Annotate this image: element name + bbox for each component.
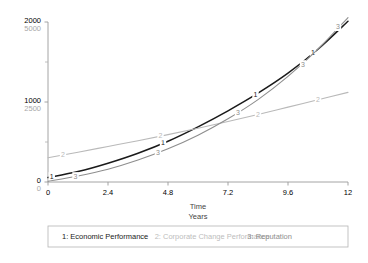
x-tick-label: 4.8	[163, 188, 173, 197]
legend-entry-3[interactable]: 3: Reputation	[247, 232, 292, 241]
series-point-label-3: 3	[300, 60, 306, 68]
series-point-label-3: 3	[335, 23, 341, 31]
point-label: 3	[301, 61, 305, 68]
series-point-label-3: 3	[235, 109, 241, 117]
series-point-label-2: 2	[255, 110, 261, 118]
series-point-label-1: 1	[252, 91, 258, 99]
point-label: 3	[156, 149, 160, 156]
x-tick-label: 0	[46, 188, 50, 197]
series-point-label-1: 1	[49, 172, 55, 180]
x-tick-label: 12	[344, 188, 352, 197]
y-tick-label-secondary: 2500	[24, 104, 41, 113]
point-label: 1	[50, 173, 54, 180]
y-tick-label-secondary: 0	[37, 184, 41, 193]
series-3: 33333	[48, 18, 348, 182]
y-axis-ticks: 00100025002000500002.44.87.29.612TimeYea…	[24, 16, 352, 221]
x-tick-label: 7.2	[223, 188, 233, 197]
chart-container: 00100025002000500002.44.87.29.612TimeYea…	[0, 0, 368, 263]
line-chart: 00100025002000500002.44.87.29.612TimeYea…	[0, 0, 368, 263]
axis-titles: TimeYears1111	[48, 21, 348, 221]
point-label: 2	[159, 132, 163, 139]
axes: 00100025002000500002.44.87.29.612TimeYea…	[24, 16, 352, 221]
series-point-label-3: 3	[155, 148, 161, 156]
point-label: 1	[254, 91, 258, 98]
x-tick-label: 2.4	[103, 188, 113, 197]
y-tick-label-secondary: 5000	[24, 24, 41, 33]
point-label: 3	[74, 173, 78, 180]
series-point-label-2: 2	[60, 151, 66, 159]
series-point-label-3: 3	[72, 172, 78, 180]
point-label: 2	[256, 111, 260, 118]
point-label: 3	[236, 109, 240, 116]
x-axis-ticks: 02.44.87.29.612TimeYears1111	[46, 21, 352, 221]
x-tick-label: 9.6	[283, 188, 293, 197]
point-label: 2	[61, 151, 65, 158]
series-2: 2222	[48, 92, 348, 159]
x-axis-title: Time	[190, 202, 206, 211]
series-point-label-2: 2	[157, 132, 163, 140]
x-axis-subtitle: Years	[189, 212, 208, 221]
series-line-3	[48, 18, 348, 182]
point-label: 2	[316, 96, 320, 103]
point-label: 3	[336, 23, 340, 30]
series-1: 1111	[48, 21, 348, 180]
series-point-label-2: 2	[315, 96, 321, 104]
legend-entry-1[interactable]: 1: Economic Performance	[62, 232, 148, 241]
series-line-1	[48, 21, 348, 177]
series-line-2	[48, 92, 348, 157]
legend: 1: Economic Performance2: Corporate Chan…	[48, 226, 348, 247]
